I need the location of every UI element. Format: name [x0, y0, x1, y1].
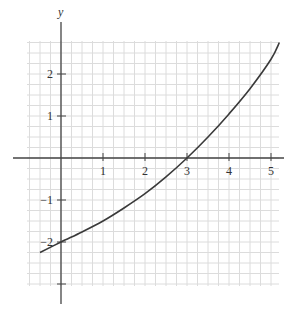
grid	[27, 41, 279, 286]
axes	[13, 22, 284, 304]
axis-ticks: 1234521−1−2	[40, 67, 274, 284]
y-tick-label: −1	[40, 193, 53, 207]
x-tick-label: 4	[226, 164, 232, 178]
y-axis-label: y	[57, 5, 64, 19]
x-tick-label: 5	[268, 164, 274, 178]
x-tick-label: 1	[100, 164, 106, 178]
x-tick-label: 2	[142, 164, 148, 178]
y-tick-label: 2	[47, 67, 53, 81]
chart: 1234521−1−2 y	[0, 0, 305, 312]
y-tick-label: 1	[47, 109, 53, 123]
x-tick-label: 3	[184, 164, 190, 178]
